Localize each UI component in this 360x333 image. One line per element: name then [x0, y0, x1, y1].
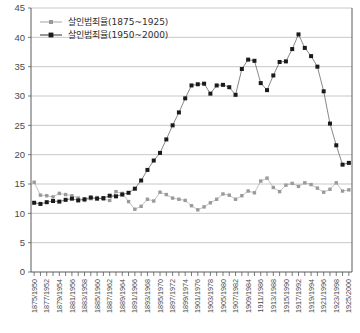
data-point-marker: [152, 199, 155, 202]
data-point-marker: [127, 200, 130, 203]
data-point-marker: [290, 47, 294, 51]
x-tick-label: 1881/1956: [68, 279, 77, 313]
data-point-marker: [272, 186, 275, 189]
data-point-marker: [215, 198, 218, 201]
y-axis-tick-labels: 051015202530354045: [14, 2, 25, 277]
x-tick-label: 1899/1974: [181, 279, 190, 313]
data-point-marker: [315, 65, 319, 69]
data-point-marker: [271, 73, 275, 77]
data-point-marker: [259, 179, 262, 182]
murder-rate-line-chart: 051015202530354045 1875/19501877/1952187…: [0, 0, 360, 333]
data-point-marker: [234, 198, 237, 201]
y-tick-label: 35: [14, 61, 25, 72]
data-point-marker: [133, 187, 137, 191]
data-point-marker: [45, 194, 48, 197]
data-point-marker: [158, 191, 161, 194]
data-point-marker: [70, 197, 74, 201]
x-tick-label: 1877/1952: [42, 279, 51, 313]
data-point-marker: [57, 200, 61, 204]
data-point-marker: [38, 202, 42, 206]
y-tick-label: 10: [14, 208, 25, 219]
data-point-marker: [108, 199, 111, 202]
data-point-marker: [145, 168, 149, 172]
x-tick-label: 1885/1960: [93, 279, 102, 313]
x-tick-label: 1875/1950: [30, 279, 39, 313]
data-point-marker: [158, 151, 162, 155]
data-point-marker: [252, 59, 256, 63]
data-point-marker: [240, 194, 243, 197]
data-point-marker: [202, 205, 205, 208]
data-point-marker: [265, 88, 269, 92]
data-point-marker: [139, 178, 143, 182]
data-point-marker: [95, 197, 99, 201]
y-tick-label: 25: [14, 120, 25, 131]
data-point-marker: [246, 58, 250, 62]
data-point-marker: [108, 194, 112, 198]
x-tick-label: 1917/1992: [294, 279, 303, 313]
data-point-marker: [297, 185, 300, 188]
data-point-marker: [322, 89, 326, 93]
data-point-marker: [114, 190, 117, 193]
data-point-marker: [89, 195, 93, 199]
x-tick-label: 1915/1990: [282, 279, 291, 313]
y-tick-label: 30: [14, 90, 25, 101]
data-point-marker: [347, 188, 350, 191]
data-point-marker: [341, 163, 345, 167]
data-point-marker: [32, 201, 36, 205]
legend-marker: [49, 33, 54, 38]
data-point-marker: [227, 85, 231, 89]
data-point-marker: [152, 159, 156, 163]
data-point-marker: [183, 96, 187, 100]
data-point-marker: [259, 81, 263, 85]
x-tick-label: 1887/1962: [105, 279, 114, 313]
data-point-marker: [177, 110, 181, 114]
legend-label: 살인범죄율(1875~1925): [68, 17, 168, 27]
data-point-marker: [234, 93, 238, 97]
data-point-marker: [171, 196, 174, 199]
data-point-marker: [208, 92, 212, 96]
data-point-marker: [309, 54, 313, 58]
data-point-marker: [284, 59, 288, 63]
x-tick-label: 1903/1978: [206, 279, 215, 313]
data-point-marker: [341, 189, 344, 192]
data-point-marker: [120, 193, 124, 197]
data-point-marker: [335, 181, 338, 184]
data-point-marker: [196, 82, 200, 86]
x-tick-label: 1909/1984: [244, 279, 253, 313]
data-point-marker: [64, 193, 67, 196]
data-point-marker: [221, 192, 224, 195]
data-point-marker: [133, 208, 136, 211]
y-tick-label: 5: [20, 237, 25, 248]
data-point-marker: [76, 198, 80, 202]
data-point-marker: [221, 83, 225, 87]
data-point-marker: [45, 200, 49, 204]
data-point-marker: [303, 181, 306, 184]
chart-container: 051015202530354045 1875/19501877/1952187…: [0, 0, 360, 333]
data-point-marker: [39, 193, 42, 196]
data-point-marker: [58, 192, 61, 195]
legend-label: 살인범죄율(1950~2000): [68, 30, 168, 40]
x-tick-label: 1879/1954: [55, 279, 64, 313]
x-tick-label: 1897/1972: [168, 279, 177, 313]
x-tick-label: 1889/1964: [118, 279, 127, 313]
data-point-marker: [177, 198, 180, 201]
y-tick-label: 15: [14, 178, 25, 189]
data-point-marker: [316, 186, 319, 189]
x-axis-tick-labels: 1875/19501877/19521879/19541881/19561883…: [30, 279, 354, 313]
x-tick-label: 1919/1994: [307, 279, 316, 313]
data-point-marker: [139, 205, 142, 208]
data-point-marker: [127, 191, 131, 195]
data-point-marker: [246, 189, 249, 192]
x-tick-label: 1901/1976: [193, 279, 202, 313]
data-point-marker: [171, 123, 175, 127]
data-point-marker: [322, 191, 325, 194]
data-point-marker: [190, 83, 194, 87]
x-tick-label: 1913/1988: [269, 279, 278, 313]
data-point-marker: [303, 46, 307, 50]
x-tick-label: 1891/1966: [130, 279, 139, 313]
x-tick-label: 1883/1958: [80, 279, 89, 313]
data-point-marker: [291, 182, 294, 185]
x-tick-label: 1905/1980: [219, 279, 228, 313]
data-point-marker: [64, 198, 68, 202]
x-tick-label: 1893/1968: [143, 279, 152, 313]
